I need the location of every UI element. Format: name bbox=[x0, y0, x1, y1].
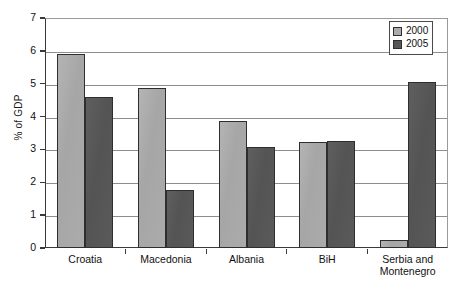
bar-chart: % of GDP 01234567 CroatiaMacedoniaAlbani… bbox=[0, 0, 465, 289]
bar-serbia-and-montenegro-2000 bbox=[380, 240, 408, 248]
y-tick-label: 0 bbox=[20, 242, 36, 253]
legend-item-2000: 2000 bbox=[393, 25, 428, 37]
y-tick-label: 5 bbox=[20, 78, 36, 89]
bar-croatia-2005 bbox=[85, 97, 113, 248]
bar-serbia-and-montenegro-2005 bbox=[408, 82, 436, 248]
legend-label-2005: 2005 bbox=[406, 39, 428, 49]
y-tick-label: 4 bbox=[20, 111, 36, 122]
x-tick-label-line: Montenegro bbox=[367, 265, 448, 277]
bar-bih-2000 bbox=[299, 142, 327, 248]
bar-albania-2005 bbox=[247, 147, 275, 248]
chart-legend: 2000 2005 bbox=[389, 21, 433, 55]
legend-swatch-2005 bbox=[393, 40, 402, 49]
y-tick-label: 1 bbox=[20, 209, 36, 220]
legend-swatch-2000 bbox=[393, 27, 402, 36]
legend-label-2000: 2000 bbox=[406, 26, 428, 36]
x-tick-label-macedonia: Macedonia bbox=[126, 253, 207, 265]
legend-item-2005: 2005 bbox=[393, 38, 428, 50]
x-tick-label-bih: BiH bbox=[287, 253, 368, 265]
x-tick-label-line: BiH bbox=[287, 253, 368, 265]
bar-croatia-2000 bbox=[57, 54, 85, 248]
x-tick-label-albania: Albania bbox=[206, 253, 287, 265]
bars-layer bbox=[45, 18, 448, 248]
x-tick-label-line: Croatia bbox=[45, 253, 126, 265]
bar-macedonia-2005 bbox=[166, 190, 194, 248]
y-tick-label: 7 bbox=[20, 12, 36, 23]
y-tick-label: 2 bbox=[20, 176, 36, 187]
x-tick-label-line: Albania bbox=[206, 253, 287, 265]
y-tick-label: 3 bbox=[20, 143, 36, 154]
x-tick-label-serbia-and-montenegro: Serbia andMontenegro bbox=[367, 253, 448, 277]
x-tick-label-line: Macedonia bbox=[126, 253, 207, 265]
bar-macedonia-2000 bbox=[138, 88, 166, 248]
x-tick-label-croatia: Croatia bbox=[45, 253, 126, 265]
x-tick-label-line: Serbia and bbox=[367, 253, 448, 265]
bar-albania-2000 bbox=[219, 121, 247, 248]
bar-bih-2005 bbox=[327, 141, 355, 248]
y-tick-label: 6 bbox=[20, 45, 36, 56]
